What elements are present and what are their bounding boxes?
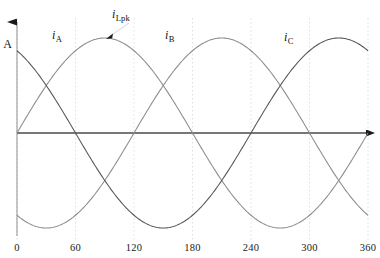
y-axis-label: A — [3, 37, 12, 52]
chart-container: A iA iB iC iLpk 0 60 120 180 240 300 360 — [0, 0, 380, 258]
series-label-i-b: iB — [165, 28, 174, 43]
peak-leader-line — [106, 23, 129, 39]
series-label-i-c: iC — [284, 30, 293, 45]
series-label-i-b-base: i — [165, 28, 168, 42]
series-label-i-b-subscript: B — [169, 34, 175, 44]
series-label-i-c-base: i — [284, 30, 287, 44]
x-tick-0: 0 — [14, 242, 19, 253]
series-label-i-a-base: i — [52, 28, 55, 42]
peak-annotation-base: i — [112, 7, 115, 21]
x-tick-120: 120 — [126, 242, 142, 253]
x-tick-240: 240 — [243, 242, 259, 253]
x-tick-180: 180 — [184, 242, 200, 253]
x-tick-300: 300 — [301, 242, 317, 253]
peak-annotation-label: iLpk — [112, 7, 130, 22]
series-label-i-c-subscript: C — [288, 36, 294, 46]
peak-annotation-subscript: Lpk — [116, 13, 130, 23]
x-tick-60: 60 — [70, 242, 81, 253]
series-label-i-a-subscript: A — [56, 34, 62, 44]
series-label-i-a: iA — [52, 28, 62, 43]
x-tick-360: 360 — [360, 242, 376, 253]
